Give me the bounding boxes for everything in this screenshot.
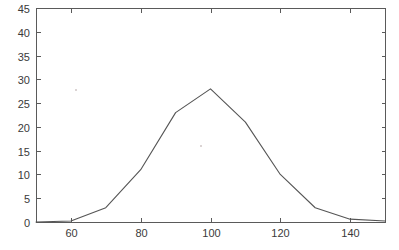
x-tick-label: 120	[271, 227, 289, 239]
y-tick-label: 40	[18, 27, 30, 39]
y-tick-label: 35	[18, 51, 30, 63]
x-axis-tick-labels: 6080100120140	[65, 227, 359, 239]
x-tick-label: 60	[65, 227, 77, 239]
y-tick-label: 20	[18, 122, 30, 134]
y-tick-label: 10	[18, 169, 30, 181]
scan-speck	[75, 89, 77, 91]
y-tick-label: 15	[18, 146, 30, 158]
scan-speck	[200, 145, 202, 147]
y-tick-label: 5	[24, 193, 30, 205]
y-tick-label: 0	[24, 217, 30, 229]
x-tick-label: 140	[341, 227, 359, 239]
y-tick-label: 25	[18, 98, 30, 110]
plot-area-background	[36, 8, 385, 222]
chart-figure: 6080100120140 051015202530354045	[0, 0, 399, 250]
line-chart: 6080100120140 051015202530354045	[0, 0, 399, 250]
x-tick-label: 100	[202, 227, 220, 239]
y-axis-tick-labels: 051015202530354045	[18, 3, 30, 229]
y-tick-label: 30	[18, 74, 30, 86]
y-tick-label: 45	[18, 3, 30, 15]
x-tick-label: 80	[135, 227, 147, 239]
